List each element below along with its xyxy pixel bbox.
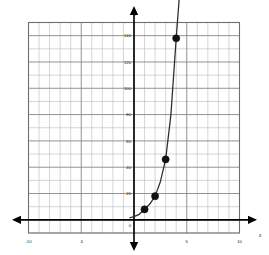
y-tick-label: 60 — [126, 139, 131, 144]
data-point — [152, 193, 159, 200]
data-point — [173, 35, 180, 42]
y-tick-label: 20 — [126, 191, 131, 196]
graph-canvas: -10-5510204060801001201400 x y — [0, 0, 269, 255]
x-tick-label: -5 — [79, 239, 83, 244]
y-tick-label: 120 — [124, 60, 132, 65]
y-tick-label: 100 — [124, 86, 132, 91]
x-tick-label: 10 — [237, 239, 242, 244]
data-point — [162, 156, 169, 163]
data-point — [141, 206, 148, 213]
y-tick-label: 80 — [126, 112, 131, 117]
y-tick-label: 40 — [126, 165, 131, 170]
exponential-graph: -10-5510204060801001201400 x y — [0, 0, 269, 255]
x-tick-label: -10 — [25, 239, 32, 244]
y-tick-label: 140 — [124, 33, 132, 38]
